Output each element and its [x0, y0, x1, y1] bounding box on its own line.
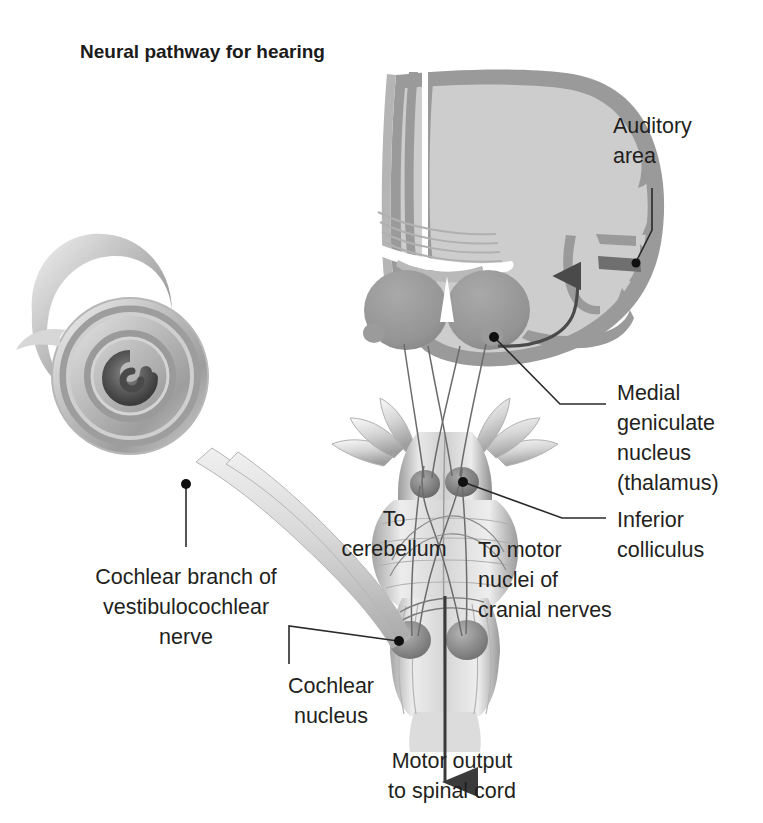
label-line: colliculus — [617, 538, 704, 562]
label-inferior-colliculus: Inferiorcolliculus — [617, 508, 704, 562]
leader-dot-cochlear-nucleus — [394, 636, 404, 646]
page-title: Neural pathway for hearing — [80, 41, 325, 62]
label-line: area — [613, 144, 656, 168]
label-line: nucleus — [617, 441, 691, 465]
label-line: cranial nerves — [478, 598, 612, 622]
inferior-colliculus-left — [410, 470, 440, 498]
label-line: geniculate — [617, 411, 715, 435]
label-line: To — [383, 507, 406, 531]
label-line: nucleus — [294, 704, 368, 728]
label-line: (thalamus) — [617, 471, 719, 495]
leader-dot-auditory-area — [632, 259, 641, 268]
leader-dot-inferior-colliculus — [458, 477, 468, 487]
label-cochlear-nucleus: Cochlearnucleus — [288, 674, 374, 728]
label-line: cerebellum — [341, 537, 446, 561]
label-line: Motor output — [392, 749, 513, 773]
figure-page: Neural pathway for hearing — [0, 0, 763, 823]
label-motor-output-to-spinal-cord: Motor outputto spinal cord — [388, 749, 516, 803]
label-cochlear-branch-of-vestibulocochlear-nerve: Cochlear branch ofvestibulocochlearnerve — [95, 565, 277, 649]
neural-pathway-diagram: Neural pathway for hearing — [0, 0, 763, 823]
label-line: vestibulocochlear — [103, 595, 269, 619]
label-line: nuclei of — [478, 568, 558, 592]
label-medial-geniculate-nucleus: Medialgeniculatenucleus(thalamus) — [617, 381, 719, 495]
leader-dot-cochlear-branch — [181, 479, 191, 489]
label-line: Medial — [617, 381, 680, 405]
medial-geniculate-left — [363, 323, 385, 343]
label-line: To motor — [478, 538, 562, 562]
label-line: Cochlear — [288, 674, 374, 698]
label-line: Cochlear branch of — [95, 565, 277, 589]
leader-dot-medial-geniculate — [489, 332, 499, 342]
label-to-motor-nuclei-of-cranial-nerves: To motornuclei ofcranial nerves — [478, 538, 612, 622]
label-line: to spinal cord — [388, 779, 516, 803]
label-line: Auditory — [613, 114, 692, 138]
label-line: nerve — [159, 625, 213, 649]
label-line: Inferior — [617, 508, 684, 532]
